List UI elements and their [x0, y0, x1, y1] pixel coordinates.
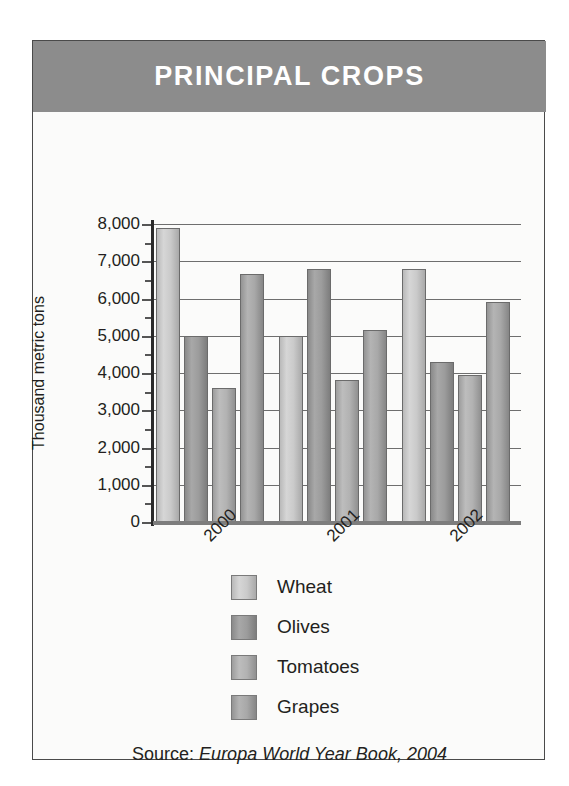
- legend-swatch-icon: [231, 655, 257, 680]
- plot-area: Thousand metric tons 01,0002,0003,0004,0…: [33, 112, 546, 761]
- legend-item-grapes: Grapes: [231, 687, 359, 727]
- bar-wheat-2001: [279, 336, 303, 522]
- y-axis-tick-label: 7,000: [97, 251, 140, 271]
- y-axis-tick-labels: 01,0002,0003,0004,0005,0006,0007,0008,00…: [33, 224, 140, 522]
- legend-item-olives: Olives: [231, 607, 359, 647]
- y-axis-tick-label: 4,000: [97, 363, 140, 383]
- y-axis-tick-label: 6,000: [97, 289, 140, 309]
- chart-legend: WheatOlivesTomatoesGrapes: [231, 567, 359, 727]
- legend-swatch-icon: [231, 695, 257, 720]
- legend-item-wheat: Wheat: [231, 567, 359, 607]
- bar-grapes-2002: [486, 302, 510, 522]
- source-prefix: Source:: [132, 744, 194, 764]
- bar-grapes-2000: [240, 274, 264, 522]
- bar-olives-2000: [184, 336, 208, 522]
- y-axis-tick-label: 1,000: [97, 475, 140, 495]
- y-axis-tick-label: 5,000: [97, 326, 140, 346]
- bar-wheat-2002: [402, 269, 426, 522]
- y-axis-line: [151, 220, 154, 526]
- y-axis-tick-label: 3,000: [97, 400, 140, 420]
- bar-olives-2002: [430, 362, 454, 522]
- legend-label: Tomatoes: [277, 656, 359, 678]
- gridline: [153, 299, 521, 300]
- legend-swatch-icon: [231, 575, 257, 600]
- y-axis-tick-label: 2,000: [97, 438, 140, 458]
- y-axis-tick-label: 0: [131, 512, 140, 532]
- chart-title-bar: PRINCIPAL CROPS: [33, 41, 546, 112]
- bar-tomatoes-2001: [335, 380, 359, 522]
- bar-olives-2001: [307, 269, 331, 522]
- page-title: PRINCIPAL CROPS: [154, 61, 425, 92]
- legend-label: Wheat: [277, 576, 332, 598]
- bar-tomatoes-2002: [458, 375, 482, 522]
- legend-label: Grapes: [277, 696, 339, 718]
- y-axis-tick-label: 8,000: [97, 214, 140, 234]
- chart-figure: PRINCIPAL CROPS Thousand metric tons 01,…: [32, 40, 545, 760]
- source-note: Source: Europa World Year Book, 2004: [33, 744, 546, 765]
- legend-item-tomatoes: Tomatoes: [231, 647, 359, 687]
- legend-swatch-icon: [231, 615, 257, 640]
- bar-wheat-2000: [156, 228, 180, 522]
- gridline: [153, 224, 521, 225]
- legend-label: Olives: [277, 616, 330, 638]
- source-reference: Europa World Year Book, 2004: [199, 744, 447, 764]
- bar-grapes-2001: [363, 330, 387, 522]
- axes-grid: [153, 224, 521, 522]
- gridline: [153, 261, 521, 262]
- bar-tomatoes-2000: [212, 388, 236, 522]
